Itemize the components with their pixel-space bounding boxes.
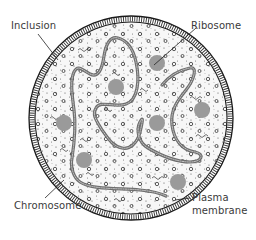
label-chromosome: Chromosome — [14, 200, 81, 212]
ribosome — [170, 174, 186, 190]
ribosome — [76, 152, 92, 168]
label-inclusion: Inclusion — [11, 20, 56, 32]
ribosome — [194, 102, 210, 118]
chromosome-leader — [45, 180, 64, 198]
inclusion-leader — [38, 34, 58, 60]
label-ribosome: Ribosome — [191, 20, 241, 32]
ribosome — [56, 115, 72, 131]
ribosome — [149, 115, 165, 131]
ribosome — [108, 79, 124, 95]
label-plasma-membrane-line2: membrane — [192, 205, 248, 217]
label-plasma-membrane-line1: Plasma — [192, 192, 229, 204]
